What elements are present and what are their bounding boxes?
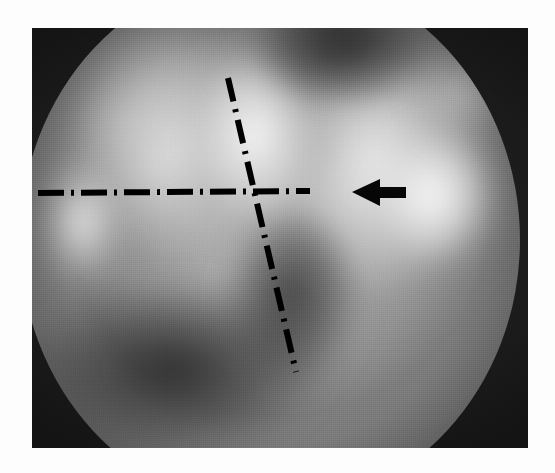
image-title: Knee radiograph with reference axis line… [0, 0, 1, 1]
page-root: Knee radiograph with reference axis line… [0, 0, 555, 473]
inferior-soft-tissue-shadow [32, 270, 330, 448]
circular-fluoroscopy-field [32, 28, 520, 448]
trabecular-texture-left [80, 80, 200, 170]
radiograph-film [32, 28, 528, 448]
